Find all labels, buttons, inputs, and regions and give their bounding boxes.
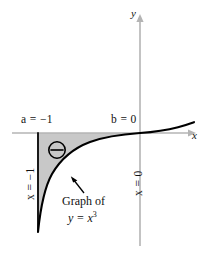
label-b-value: b = 0	[111, 114, 137, 126]
annotation-equation-exponent: 3	[93, 210, 97, 219]
graph-canvas	[0, 0, 205, 257]
label-x-equals-neg1: x = −1	[25, 167, 37, 200]
label-x-equals-0: x = 0	[133, 170, 145, 196]
figure-container: a = −1 b = 0 x y x = −1 x = 0 Graph of y…	[0, 0, 205, 257]
annotation-graph-of: Graph of	[62, 195, 105, 207]
label-a-value: a = −1	[21, 114, 53, 126]
annotation-equation: y = x3	[68, 212, 97, 224]
y-axis-label: y	[131, 8, 136, 19]
annotation-equation-base: y = x	[68, 211, 93, 225]
x-axis-label: x	[192, 130, 197, 141]
y-axis-arrowhead	[136, 14, 143, 22]
annotation-leader-arrow	[71, 176, 84, 193]
